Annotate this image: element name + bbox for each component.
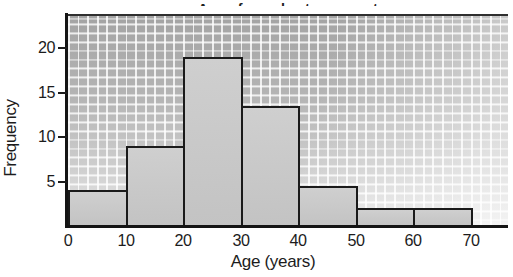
histogram-bar-30-40 — [241, 106, 301, 226]
y-axis-line — [65, 13, 68, 228]
histogram-bar-0-10 — [68, 190, 128, 226]
plot-area — [68, 14, 508, 226]
x-tick-label-40: 40 — [277, 231, 319, 250]
chart-title: Age of people at a concert — [198, 0, 378, 6]
y-tick-mark-5 — [58, 181, 67, 183]
x-tick-label-0: 0 — [47, 231, 89, 250]
x-tick-label-10: 10 — [105, 231, 147, 250]
x-tick-label-30: 30 — [220, 231, 262, 250]
histogram-bar-50-60 — [356, 208, 416, 226]
y-tick-label-5: 5 — [19, 173, 55, 191]
x-tick-label-70: 70 — [450, 231, 492, 250]
histogram-bar-10-20 — [126, 146, 186, 226]
chart-title-clip: Age of people at a concert — [68, 0, 508, 6]
x-axis-line — [65, 225, 508, 228]
x-tick-label-50: 50 — [335, 231, 377, 250]
y-tick-mark-15 — [58, 92, 67, 94]
histogram-figure: Age of people at a concert Frequency 510… — [0, 0, 513, 277]
histogram-bar-40-50 — [298, 186, 358, 226]
y-tick-label-15: 15 — [19, 84, 55, 102]
histogram-bar-20-30 — [183, 57, 243, 226]
x-tick-label-60: 60 — [392, 231, 434, 250]
y-tick-mark-10 — [58, 136, 67, 138]
y-tick-label-10: 10 — [19, 128, 55, 146]
y-tick-label-20: 20 — [19, 39, 55, 57]
x-axis-label: Age (years) — [188, 252, 358, 272]
x-tick-label-20: 20 — [162, 231, 204, 250]
y-tick-mark-20 — [58, 47, 67, 49]
histogram-bar-60-70 — [413, 208, 473, 226]
